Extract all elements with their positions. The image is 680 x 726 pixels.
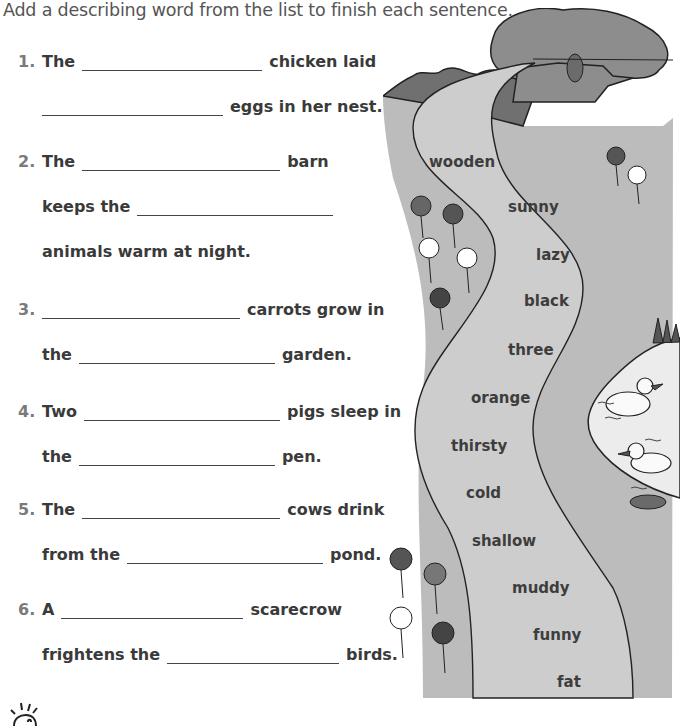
word-option: three [508, 341, 554, 359]
word-option: thirsty [451, 437, 507, 455]
answer-blank-4a[interactable] [84, 406, 280, 421]
answer-blank-4b[interactable] [79, 451, 275, 466]
sentence-text: animals warm at night. [42, 242, 251, 261]
word-option: wooden [429, 153, 495, 171]
question-3-line-1: carrots grow in [42, 300, 384, 319]
question-number-6: 6. [18, 600, 35, 619]
sentence-text: cows drink [287, 500, 384, 519]
sentence-text: the [42, 345, 72, 364]
sentence-text: eggs in her nest. [230, 97, 383, 116]
question-2-line-3: animals warm at night. [42, 242, 251, 261]
sentence-text: frightens the [42, 645, 160, 664]
word-option: fat [557, 673, 581, 691]
question-3-line-2: the garden. [42, 345, 352, 364]
answer-blank-2a[interactable] [82, 156, 280, 171]
question-4-line-2: the pen. [42, 447, 322, 466]
answer-blank-1b[interactable] [42, 101, 223, 116]
question-6-line-2: frightens the birds. [42, 645, 398, 664]
word-option: cold [466, 484, 501, 502]
question-number-3: 3. [18, 300, 35, 319]
question-number-5: 5. [18, 500, 35, 519]
word-option: funny [533, 626, 581, 644]
answer-blank-5b[interactable] [127, 549, 323, 564]
answer-blank-2b[interactable] [137, 201, 333, 216]
answer-blank-3a[interactable] [42, 304, 240, 319]
word-option: lazy [536, 246, 570, 264]
question-2-line-2: keeps the [42, 197, 340, 216]
question-number-1: 1. [18, 52, 35, 71]
sentence-text: The [42, 52, 75, 71]
sentence-text: chicken laid [269, 52, 376, 71]
sentence-text: pen. [282, 447, 322, 466]
sentence-text: the [42, 447, 72, 466]
answer-blank-5a[interactable] [82, 504, 280, 519]
sentence-text: from the [42, 545, 120, 564]
answer-blank-6b[interactable] [167, 649, 339, 664]
lightbulb-icon [6, 700, 46, 726]
word-option: black [524, 292, 569, 310]
answer-blank-1a[interactable] [82, 56, 262, 71]
question-1-line-2: eggs in her nest. [42, 97, 383, 116]
question-number-2: 2. [18, 152, 35, 171]
sentence-text: The [42, 500, 75, 519]
sentence-text: keeps the [42, 197, 130, 216]
question-1-line-1: The chicken laid [42, 52, 376, 71]
sentence-text: barn [287, 152, 329, 171]
question-4-line-1: Two pigs sleep in [42, 402, 401, 421]
sentence-text: pond. [330, 545, 381, 564]
sentence-text: garden. [282, 345, 352, 364]
word-option: muddy [512, 579, 570, 597]
word-option: shallow [472, 532, 536, 550]
lily-pad-icon [630, 495, 666, 509]
sentence-text: carrots grow in [247, 300, 384, 319]
question-number-4: 4. [18, 402, 35, 421]
question-6-line-1: A scarecrow [42, 600, 342, 619]
farm-path-illustration: wooden sunny lazy black three orange thi… [383, 8, 680, 726]
sentence-text: scarecrow [250, 600, 342, 619]
question-5-line-1: The cows drink [42, 500, 384, 519]
word-option: orange [471, 389, 530, 407]
answer-blank-3b[interactable] [79, 349, 275, 364]
grass-icon [653, 318, 680, 343]
question-5-line-2: from the pond. [42, 545, 381, 564]
sentence-text: The [42, 152, 75, 171]
sentence-text: A [42, 600, 54, 619]
answer-blank-6a[interactable] [61, 604, 243, 619]
question-2-line-1: The barn [42, 152, 329, 171]
word-option: sunny [508, 198, 559, 216]
sentence-text: Two [42, 402, 77, 421]
